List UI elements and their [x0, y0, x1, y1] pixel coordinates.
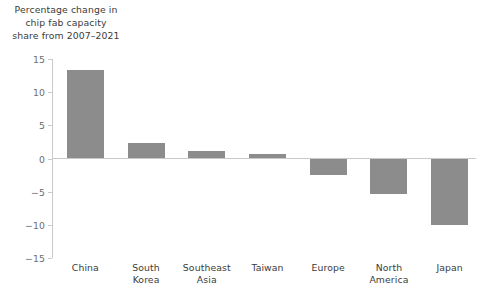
bar	[431, 159, 468, 225]
bar	[310, 159, 347, 176]
y-tick-label: 5	[39, 120, 45, 131]
x-axis-label: Japan	[436, 262, 462, 274]
x-axis-label: Taiwan	[251, 262, 283, 274]
y-tick-label: −15	[25, 253, 45, 264]
bar	[188, 151, 225, 159]
x-axis-label: Europe	[312, 262, 345, 274]
y-tick-mark	[48, 125, 52, 126]
y-tick-mark	[48, 59, 52, 60]
x-axis-label: North America	[369, 262, 408, 285]
y-tick-mark	[48, 225, 52, 226]
chart-title: Percentage change in chip fab capacity s…	[0, 3, 132, 43]
x-axis-label: China	[72, 262, 99, 274]
y-tick-label: 15	[33, 54, 45, 65]
y-tick-mark	[48, 258, 52, 259]
y-tick-label: −5	[31, 186, 45, 197]
bar	[370, 159, 407, 194]
bar	[249, 154, 286, 159]
x-axis-label: Southeast Asia	[183, 262, 231, 285]
x-axis-label: South Korea	[132, 262, 160, 285]
bar-chart-figure: Percentage change in chip fab capacity s…	[0, 0, 497, 305]
y-tick-label: 10	[33, 87, 45, 98]
y-tick-label: −10	[25, 219, 45, 230]
bar	[67, 70, 104, 158]
y-tick-mark	[48, 192, 52, 193]
y-tick-mark	[48, 159, 52, 160]
y-tick-mark	[48, 92, 52, 93]
y-tick-label: 0	[39, 153, 45, 164]
bar	[128, 143, 165, 159]
plot-area: 151050−5−10−15 ChinaSouth KoreaSoutheast…	[52, 59, 477, 258]
